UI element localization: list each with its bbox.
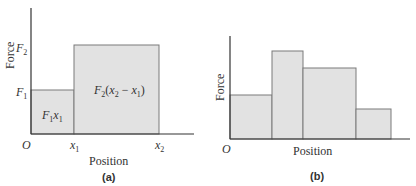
x-tick-x1: x1 (70, 139, 79, 154)
area-label-f2-x2-minus-x1: F2(x2 − x1) (94, 84, 145, 99)
y-axis-title-a: Force (4, 42, 16, 69)
bar-4 (356, 109, 391, 139)
panel-b-graph (230, 36, 410, 139)
caption-a: (a) (102, 172, 115, 183)
bar-3 (303, 68, 356, 139)
y-tick-f2: F2 (16, 42, 27, 57)
bar-2 (272, 51, 303, 139)
origin-label-a: O (22, 139, 31, 151)
y-axis-title-b: Force (214, 74, 226, 101)
bar-1 (230, 95, 272, 139)
caption-b: (b) (310, 171, 324, 182)
x-axis-title-b: Position (293, 145, 332, 157)
x-tick-x2: x2 (155, 139, 164, 154)
origin-label-b: O (222, 143, 231, 155)
area-label-f1x1: F1x1 (42, 109, 63, 124)
y-tick-f1: F1 (16, 86, 27, 101)
diagram-canvas (0, 0, 416, 186)
x-axis-title-a: Position (89, 155, 128, 167)
